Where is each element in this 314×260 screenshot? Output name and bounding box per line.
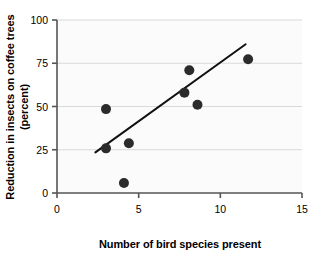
x-tick-label: 10 — [214, 203, 226, 215]
x-axis — [57, 193, 302, 198]
y-axis-title-line-2: (percent) — [18, 83, 30, 130]
chart-canvas: 0255075100 051015 Number of bird species… — [0, 0, 314, 260]
data-point — [101, 143, 111, 153]
y-tick-labels: 0255075100 — [30, 14, 48, 199]
y-tick-label: 100 — [30, 14, 48, 26]
x-tick-label: 5 — [136, 203, 142, 215]
data-point — [119, 178, 129, 188]
y-axis — [52, 20, 57, 193]
y-tick-label: 25 — [36, 144, 48, 156]
data-point — [179, 88, 189, 98]
data-point — [184, 65, 194, 75]
data-point — [101, 104, 111, 114]
x-tick-label: 0 — [54, 203, 60, 215]
y-tick-label: 50 — [36, 101, 48, 113]
x-tick-label: 15 — [296, 203, 308, 215]
data-point — [243, 54, 253, 64]
x-tick-labels: 051015 — [54, 203, 308, 215]
y-tick-label: 75 — [36, 57, 48, 69]
x-axis-title: Number of bird species present — [99, 238, 261, 250]
data-point — [192, 100, 202, 110]
y-axis-title-line-1: Reduction in insects on coffee trees — [4, 14, 16, 199]
y-tick-label: 0 — [42, 187, 48, 199]
scatter-chart: 0255075100 051015 Number of bird species… — [0, 0, 314, 260]
data-point — [124, 138, 134, 148]
